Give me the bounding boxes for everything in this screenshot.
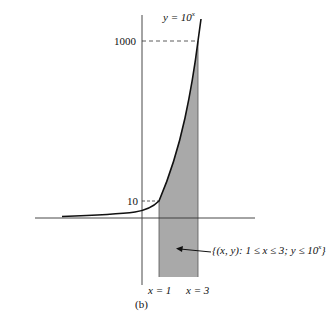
graph-canvas bbox=[0, 0, 336, 319]
region-label: {(x, y): 1 ≤ x ≤ 3; y ≤ 10x} bbox=[212, 245, 326, 256]
x3-label: x = 3 bbox=[186, 285, 209, 296]
figure-caption: (b) bbox=[135, 299, 148, 310]
curve-label: y = 10x bbox=[163, 12, 195, 23]
x1-label: x = 1 bbox=[148, 285, 171, 296]
tick-10: 10 bbox=[127, 196, 138, 207]
tick-1000: 1000 bbox=[114, 36, 136, 47]
